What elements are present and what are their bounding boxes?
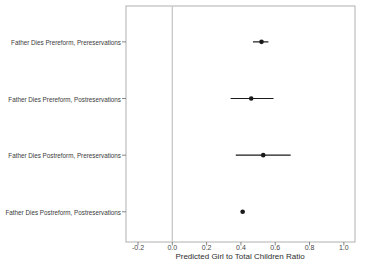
coefficient-plot-figure: -0.20.00.20.40.60.81.0Father Dies Preref… — [0, 0, 366, 270]
category-label: Father Dies Prereform, Prereservations — [11, 38, 121, 45]
point-estimate — [249, 96, 254, 101]
x-tick-label: 0.4 — [236, 244, 246, 251]
x-tick-label: 0.8 — [305, 244, 315, 251]
x-tick-label: -0.2 — [132, 244, 144, 251]
x-tick-label: 0.6 — [270, 244, 280, 251]
x-tick-label: 1.0 — [339, 244, 349, 251]
category-label: Father Dies Postreform, Prereservations — [8, 152, 121, 159]
category-label: Father Dies Prereform, Postreservations — [8, 95, 121, 102]
x-tick-label: 0.0 — [167, 244, 177, 251]
point-estimate — [261, 153, 266, 158]
point-estimate — [259, 40, 264, 45]
plot-border — [126, 6, 355, 242]
point-estimate — [240, 209, 245, 214]
category-label: Father Dies Postreform, Postreservations — [6, 208, 121, 215]
x-tick-label: 0.2 — [202, 244, 212, 251]
x-axis-title: Predicted Girl to Total Children Ratio — [175, 252, 304, 261]
